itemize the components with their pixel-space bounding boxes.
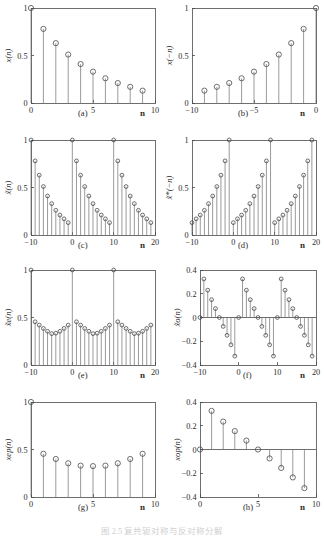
x-axis-label-h: n [300, 502, 305, 512]
y-tick-label: 0 [23, 231, 27, 240]
x-axis-label-d: n [300, 240, 305, 250]
x-tick-label: −5 [250, 106, 259, 115]
subplot-f: −1001020−0.4−0.200.20.4x̃o(n) [170, 260, 324, 387]
x-tick-label: 10 [271, 238, 279, 247]
x-tick-label: 10 [273, 368, 281, 377]
x-tick-label: 20 [312, 368, 320, 377]
y-tick-label: 1 [23, 398, 27, 407]
x-axis-label-e: n [140, 370, 145, 380]
y-axis-label-b: x(−n) [164, 46, 174, 67]
y-tick-label: 1 [23, 266, 27, 275]
y-tick-label: 0.4 [186, 266, 196, 275]
stem-series-a [28, 5, 145, 103]
subplot-h: 0510−0.4−0.200.20.4xop(n) [170, 392, 324, 519]
x-tick-label: 0 [237, 368, 241, 377]
x-tick-label: 0 [29, 500, 33, 509]
subplot-label-g: (g) [78, 502, 88, 512]
y-tick-label: 1 [184, 4, 188, 13]
subplot-label-h: (h) [243, 502, 253, 512]
x-tick-label: 5 [91, 106, 95, 115]
y-axis-label-f: x̃o(n) [172, 308, 182, 327]
x-tick-label: 0 [314, 106, 318, 115]
y-axis-label-d: x̃*(−n) [164, 175, 174, 200]
subplot-e: −100102000.51x̃e(n) [1, 260, 163, 387]
x-axis-label-c: n [140, 240, 145, 250]
y-tick-label: 1 [23, 136, 27, 145]
x-tick-label: 10 [312, 500, 320, 509]
y-tick-label: 0 [192, 446, 196, 455]
stem-series-e [29, 268, 153, 365]
subplot-label-a: (a) [78, 108, 88, 118]
stem-series-d [190, 138, 314, 235]
stem-series-c [29, 138, 153, 235]
stem-series-g [28, 399, 145, 497]
y-tick-label: 0.5 [17, 314, 27, 323]
y-tick-label: 0 [184, 99, 188, 108]
subplot-label-b: (b) [238, 108, 248, 118]
subplot-c: −100102000.51x̃(n) [1, 130, 163, 257]
stem-series-b [202, 5, 319, 103]
y-axis-label-e: x̃e(n) [3, 309, 13, 328]
x-tick-label: 0 [70, 238, 74, 247]
y-tick-label: 0.5 [17, 184, 27, 193]
y-tick-label: 0.2 [186, 290, 196, 299]
y-axis-label-g: xep(n) [3, 438, 13, 461]
x-tick-label: 10 [151, 500, 159, 509]
figure-caption: 图 2.5 复共轭对称与反对称分解 [0, 524, 324, 536]
y-tick-label: 0.4 [186, 398, 196, 407]
figure-container: 051000.51x(n)(a)n−10−5000.51x(−n)(b)n−10… [0, 0, 324, 537]
x-axis-label-a: n [140, 108, 145, 118]
y-tick-label: −0.4 [182, 361, 197, 370]
x-tick-label: 0 [198, 500, 202, 509]
x-tick-label: 0 [29, 106, 33, 115]
x-tick-label: 20 [151, 368, 159, 377]
y-axis-label-a: x(n) [3, 48, 13, 63]
y-tick-label: 0.5 [17, 52, 27, 61]
subplot-g: 051000.51xep(n) [1, 392, 163, 519]
y-tick-label: −0.2 [182, 337, 197, 346]
y-tick-label: 0 [23, 99, 27, 108]
y-tick-label: 1 [184, 136, 188, 145]
x-axis-label-f: n [300, 370, 305, 380]
x-tick-label: 10 [110, 368, 118, 377]
y-tick-label: 0.2 [186, 422, 196, 431]
subplot-b: −10−5000.51x(−n) [162, 0, 324, 125]
y-tick-label: −0.4 [182, 493, 197, 502]
x-tick-label: 0 [231, 238, 235, 247]
y-tick-label: 1 [23, 4, 27, 13]
subplot-d: −100102000.51x̃*(−n) [162, 130, 324, 257]
y-tick-label: 0 [23, 361, 27, 370]
y-tick-label: 0 [23, 493, 27, 502]
y-tick-label: −0.2 [182, 469, 197, 478]
x-axis-label-b: n [300, 108, 305, 118]
y-axis-label-h: xop(n) [172, 438, 182, 462]
x-tick-label: 5 [256, 500, 260, 509]
x-tick-label: 5 [91, 500, 95, 509]
x-tick-label: 20 [151, 238, 159, 247]
subplot-label-e: (e) [78, 370, 88, 380]
x-tick-label: 10 [151, 106, 159, 115]
subplot-label-f: (f) [243, 370, 252, 380]
x-tick-label: 20 [312, 238, 320, 247]
subplot-a: 051000.51x(n) [1, 0, 163, 125]
subplot-label-d: (d) [238, 240, 248, 250]
y-tick-label: 0 [192, 314, 196, 323]
x-axis-label-g: n [140, 502, 145, 512]
y-tick-label: 0.5 [17, 446, 27, 455]
x-tick-label: 0 [70, 368, 74, 377]
y-tick-label: 0.5 [178, 52, 188, 61]
y-tick-label: 0.5 [178, 184, 188, 193]
y-axis-label-c: x̃(n) [3, 180, 13, 195]
x-tick-label: 10 [110, 238, 118, 247]
y-tick-label: 0 [184, 231, 188, 240]
subplot-label-c: (c) [78, 240, 88, 250]
